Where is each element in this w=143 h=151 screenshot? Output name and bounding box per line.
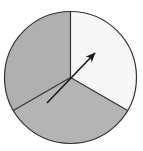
spinner-svg	[0, 0, 143, 151]
spinner-figure	[0, 0, 143, 151]
